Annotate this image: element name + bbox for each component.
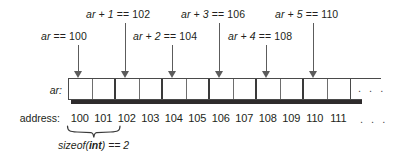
arrow-head-icon — [121, 71, 129, 78]
arrow-head-icon — [262, 71, 270, 78]
sizeof-keyword: int — [89, 139, 102, 151]
cells-continuation-dots: . . . — [358, 82, 386, 94]
memory-cell — [140, 79, 164, 99]
pointer-label-ar-3: ar + 3 == 106 — [181, 8, 245, 20]
pointer-label-var: ar — [41, 30, 51, 42]
address-number: 111 — [327, 112, 351, 124]
cells-continuation-rail-top — [350, 78, 381, 79]
pointer-label-op: == 102 — [114, 8, 150, 20]
address-number-row: 100 101 102 103 104 105 106 107 108 109 … — [68, 112, 350, 124]
address-number: 104 — [162, 112, 186, 124]
arrow-stem — [219, 23, 220, 71]
arrow-head-icon — [74, 71, 82, 78]
memory-cell — [257, 79, 281, 99]
memory-cell — [163, 79, 187, 99]
memory-cell — [210, 79, 234, 99]
address-number: 105 — [186, 112, 210, 124]
pointer-label-ar-2: ar + 2 == 104 — [133, 30, 197, 42]
pointer-label-op: == 108 — [256, 30, 292, 42]
pointer-arrow-ar-3 — [215, 23, 224, 78]
address-number: 109 — [280, 112, 304, 124]
array-memory-diagram: ar == 100 ar + 1 == 102 ar + 2 == 104 ar… — [0, 0, 398, 163]
pointer-label-op: == 104 — [161, 30, 197, 42]
arrow-stem — [125, 23, 126, 71]
sizeof-suffix: ) == 2 — [102, 139, 129, 151]
address-row-label: address: — [2, 112, 60, 124]
pointer-label-ar-0: ar == 100 — [41, 30, 87, 42]
memory-cell — [304, 79, 328, 99]
cells-continuation-rail-bottom — [350, 99, 362, 100]
arrow-stem — [78, 45, 79, 71]
arrow-head-icon — [215, 71, 223, 78]
pointer-label-op: == 100 — [51, 30, 87, 42]
address-number: 107 — [233, 112, 257, 124]
address-number: 102 — [115, 112, 139, 124]
pointer-label-var: ar + 5 — [275, 8, 303, 20]
memory-cell — [281, 79, 305, 99]
arrow-stem — [313, 23, 314, 71]
memory-cell — [69, 79, 93, 99]
sizeof-brace — [66, 125, 122, 139]
memory-cell — [187, 79, 211, 99]
address-number: 101 — [92, 112, 116, 124]
array-row-label: ar: — [18, 84, 62, 96]
arrow-stem — [266, 45, 267, 71]
pointer-label-op: == 106 — [209, 8, 245, 20]
memory-cell — [116, 79, 140, 99]
address-number: 100 — [68, 112, 92, 124]
address-number: 106 — [209, 112, 233, 124]
pointer-arrow-ar-1 — [121, 23, 130, 78]
pointer-arrow-ar-2 — [168, 45, 177, 78]
pointer-label-op: == 110 — [303, 8, 339, 20]
address-continuation-dots: . . . — [360, 113, 388, 125]
address-number: 103 — [139, 112, 163, 124]
memory-cell — [93, 79, 117, 99]
sizeof-prefix: sizeof( — [58, 139, 89, 151]
arrow-stem — [172, 45, 173, 71]
pointer-label-var: ar + 3 — [181, 8, 209, 20]
sizeof-caption: sizeof(int) == 2 — [58, 139, 129, 151]
memory-cell — [328, 79, 352, 99]
pointer-arrow-ar-0 — [74, 45, 83, 78]
arrow-head-icon — [168, 71, 176, 78]
address-number: 108 — [256, 112, 280, 124]
pointer-arrow-ar-5 — [309, 23, 318, 78]
pointer-label-ar-4: ar + 4 == 108 — [228, 30, 292, 42]
pointer-label-ar-1: ar + 1 == 102 — [86, 8, 150, 20]
memory-cell — [234, 79, 258, 99]
pointer-label-ar-5: ar + 5 == 110 — [275, 8, 338, 20]
memory-cell-strip — [68, 78, 351, 100]
pointer-arrow-ar-4 — [262, 45, 271, 78]
pointer-label-var: ar + 1 — [86, 8, 114, 20]
pointer-label-var: ar + 4 — [228, 30, 256, 42]
arrow-head-icon — [309, 71, 317, 78]
address-number: 110 — [303, 112, 327, 124]
pointer-label-var: ar + 2 — [133, 30, 161, 42]
